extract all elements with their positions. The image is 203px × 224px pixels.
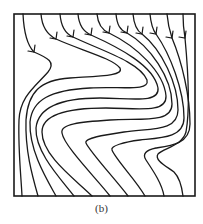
figure-caption: (b) <box>0 202 203 214</box>
streamline-7 <box>86 14 178 196</box>
arrowhead-icon <box>179 31 186 38</box>
streamline-6 <box>62 14 172 196</box>
arrowheads-group <box>28 26 186 52</box>
streamline-1 <box>19 14 51 196</box>
arrowhead-icon <box>166 31 173 38</box>
streamlines-group <box>19 14 190 196</box>
streamline-3 <box>30 14 147 196</box>
streamline-figure <box>0 0 203 224</box>
